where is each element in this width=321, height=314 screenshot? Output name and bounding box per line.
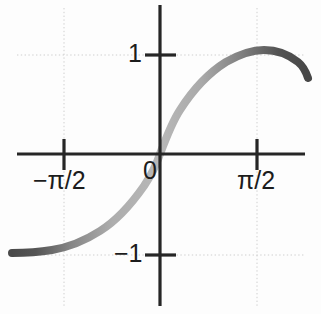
plot-canvas <box>0 0 321 314</box>
y-axis-tick-label-one: 1 <box>128 41 142 66</box>
x-axis-tick-label-neg-pi-over-2: −π/2 <box>33 168 86 193</box>
y-axis-tick-label-neg-one: −1 <box>114 241 143 266</box>
sine-curve-figure: −π/2 π/2 1 −1 0 <box>0 0 321 314</box>
x-axis-tick-label-pi-over-2: π/2 <box>237 168 275 193</box>
origin-label: 0 <box>143 158 157 183</box>
